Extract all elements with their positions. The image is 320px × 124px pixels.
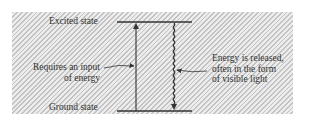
ground-state-label: Ground state	[49, 102, 98, 113]
absorption-pointer-arrow	[104, 65, 134, 68]
emission-wavy-arrow	[173, 23, 175, 107]
emission-text-line: often in the form	[212, 64, 284, 75]
emission-annotation: Energy is released, often in the form of…	[212, 53, 284, 85]
absorption-text-line: of energy	[28, 73, 100, 84]
absorption-annotation: Requires an input of energy	[28, 62, 100, 83]
absorption-text-line: Requires an input	[28, 62, 100, 73]
emission-pointer-arrow	[177, 70, 207, 72]
emission-text-line: Energy is released,	[212, 53, 284, 64]
excited-state-label: Excited state	[49, 16, 98, 27]
emission-text-line: of visible light	[212, 74, 284, 85]
